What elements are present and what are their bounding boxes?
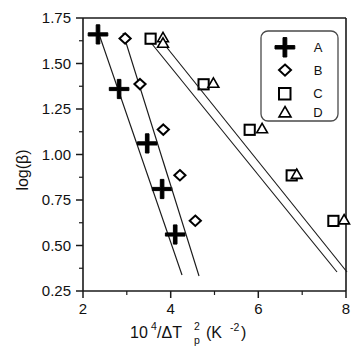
x-axis-title-unit-exponent: -2 [230, 321, 239, 333]
legend-label-b: B [314, 63, 323, 78]
y-tick-label-1.75: 1.75 [42, 9, 71, 26]
y-axis-title: log(β) [14, 149, 31, 190]
x-axis-title-unit-close: ) [241, 324, 246, 341]
marker-square [146, 34, 156, 44]
y-tick-label-0.25: 0.25 [42, 282, 71, 299]
scatter-plot: 1.75 1.50 1.25 1.00 0.75 0.50 0.25 2 4 6… [0, 0, 363, 355]
x-tick-label-6: 6 [254, 300, 262, 317]
y-tick-label-0.50: 0.50 [42, 237, 71, 254]
legend-marker-square [279, 88, 291, 100]
legend[interactable]: A B C D [261, 31, 338, 121]
x-tick-label-2: 2 [79, 300, 87, 317]
x-axis-title-divider: /ΔT [157, 324, 182, 341]
x-axis-title-sup: 2 [194, 320, 200, 332]
marker-square [245, 125, 255, 135]
y-tick-label-1.25: 1.25 [42, 100, 71, 117]
y-tick-label-0.75: 0.75 [42, 191, 71, 208]
legend-background [261, 31, 338, 121]
chart-figure: 1.75 1.50 1.25 1.00 0.75 0.50 0.25 2 4 6… [0, 0, 363, 355]
x-axis-title-unit-open: (K [206, 324, 222, 341]
legend-label-d: D [313, 105, 322, 120]
marker-square [328, 216, 338, 226]
y-tick-label-1.50: 1.50 [42, 55, 71, 72]
legend-label-c: C [313, 86, 322, 101]
x-tick-label-8: 8 [342, 300, 350, 317]
legend-label-a: A [314, 40, 323, 55]
y-tick-label-1.00: 1.00 [42, 146, 71, 163]
x-axis-title-sub: p [194, 334, 200, 346]
x-axis-title-base: 10 [130, 324, 148, 341]
x-tick-label-4: 4 [167, 300, 175, 317]
